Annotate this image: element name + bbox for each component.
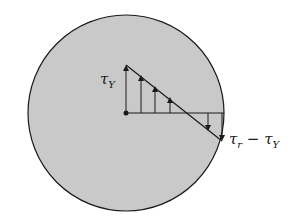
center-point	[124, 111, 129, 116]
diagram-canvas	[0, 0, 303, 222]
label-tau-y: τY	[100, 70, 115, 90]
label-tau-r-minus-tau-y: τr − τY	[229, 130, 279, 150]
